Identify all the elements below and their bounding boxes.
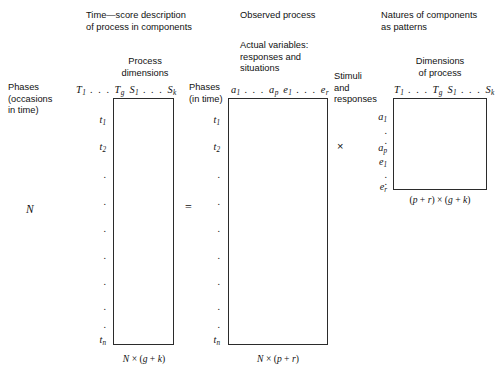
panel-right-column-group-label: Dimensions of process xyxy=(390,56,490,79)
panel-right-title: Natures of components as patterns xyxy=(381,10,498,33)
panel-left-row-dot: . xyxy=(58,251,106,261)
panel-middle-row-dot: . xyxy=(182,170,220,180)
panel-middle-title: Observed process xyxy=(240,10,390,22)
panel-right-row-label-ap: ap xyxy=(355,142,387,155)
panel-right-row-label-a1: a1 xyxy=(355,111,387,124)
panel-left-row-label-tn: tn xyxy=(58,334,106,347)
panel-middle-row-label-tn: tn xyxy=(182,334,220,347)
panel-left-column-group-label: Process dimensions xyxy=(96,56,194,79)
panel-right-row-dot: . xyxy=(355,126,387,136)
panel-middle-row-label-t1: t1 xyxy=(182,114,220,127)
panel-left-outer-label: N xyxy=(26,203,34,215)
panel-left-dimension-label: N × (g + k) xyxy=(84,353,204,364)
panel-middle-dimension-label: N × (p + r) xyxy=(218,353,338,364)
panel-right-dimension-label: (p + r) × (g + k) xyxy=(380,194,498,205)
matrix-box-middle xyxy=(228,98,328,345)
panel-left-row-axis-label: Phases (occasions in time) xyxy=(8,82,80,117)
panel-left-row-dot: . xyxy=(58,197,106,207)
panel-right-row-axis-label: Stimuli and responses xyxy=(334,71,386,106)
panel-right-row-label-e1: e1 xyxy=(355,156,387,169)
panel-middle-row-dot: . xyxy=(182,251,220,261)
panel-middle-row-dot: . xyxy=(182,277,220,287)
panel-left-row-dot: . xyxy=(58,170,106,180)
panel-middle-row-dot: . xyxy=(182,197,220,207)
panel-left-row-dot: . xyxy=(58,224,106,234)
panel-middle-column-headers: a1 . . . ape1 . . . er xyxy=(231,84,329,97)
matrix-box-left xyxy=(113,98,174,345)
panel-left-title: Time—score description of process in com… xyxy=(86,10,256,33)
panel-middle-row-dot: . xyxy=(182,224,220,234)
panel-middle-row-label-t2: t2 xyxy=(182,141,220,154)
panel-left-row-dot: . xyxy=(58,320,106,330)
panel-left-column-headers: T1 . . . TgS1 . . . Sk xyxy=(76,84,176,97)
panel-left-row-label-t2: t2 xyxy=(58,141,106,154)
panel-middle-column-group-label: Actual variables: responses and situatio… xyxy=(240,40,360,75)
matrix-box-right xyxy=(393,98,487,190)
panel-middle-row-dot: . xyxy=(182,320,220,330)
panel-left-row-label-t1: t1 xyxy=(58,114,106,127)
operator-times: × xyxy=(337,140,343,152)
panel-middle-row-dot: . xyxy=(182,302,220,312)
panel-left-row-dot: . xyxy=(58,302,106,312)
panel-left-row-dot: . xyxy=(58,277,106,287)
panel-right-row-label-er: er xyxy=(355,181,387,194)
panel-right-column-headers: T1 . . . TgS1 . . . Sk xyxy=(394,84,494,97)
